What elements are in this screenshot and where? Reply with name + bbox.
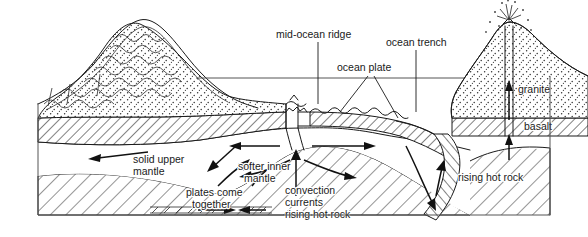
- label-plates-come-together-line2: together: [192, 198, 231, 210]
- label-convection-line2: currents: [285, 196, 323, 208]
- leader-lines: [318, 42, 416, 118]
- label-softer-inner-mantle-line1: softer inner: [238, 160, 291, 172]
- leader-ocean-plate-left: [340, 76, 368, 112]
- label-ocean-trench: ocean trench: [386, 36, 447, 48]
- tectonics-diagram: mid-ocean ridge ocean plate ocean trench…: [0, 0, 588, 237]
- granite-left-continent: [38, 23, 286, 118]
- label-solid-upper-mantle-line2: mantle: [133, 165, 165, 177]
- tectonics-figure: mid-ocean ridge ocean plate ocean trench…: [0, 0, 588, 237]
- label-convection-line1: convection: [285, 184, 335, 196]
- label-ocean-plate: ocean plate: [337, 61, 391, 73]
- eruption-plume: [497, 4, 521, 20]
- granite-right-continent: [451, 22, 588, 118]
- label-rising-hot-rock-right: rising hot rock: [458, 171, 524, 183]
- label-basalt: basalt: [524, 120, 552, 132]
- label-softer-inner-mantle-line2: mantle: [244, 172, 276, 184]
- label-mid-ocean-ridge: mid-ocean ridge: [276, 28, 351, 40]
- label-granite: granite: [518, 83, 550, 95]
- label-convection-line3: rising hot rock: [285, 208, 351, 220]
- label-plates-come-together-line1: plates come: [186, 186, 243, 198]
- leader-ocean-plate-right: [374, 76, 398, 118]
- label-solid-upper-mantle-line1: solid upper: [133, 153, 185, 165]
